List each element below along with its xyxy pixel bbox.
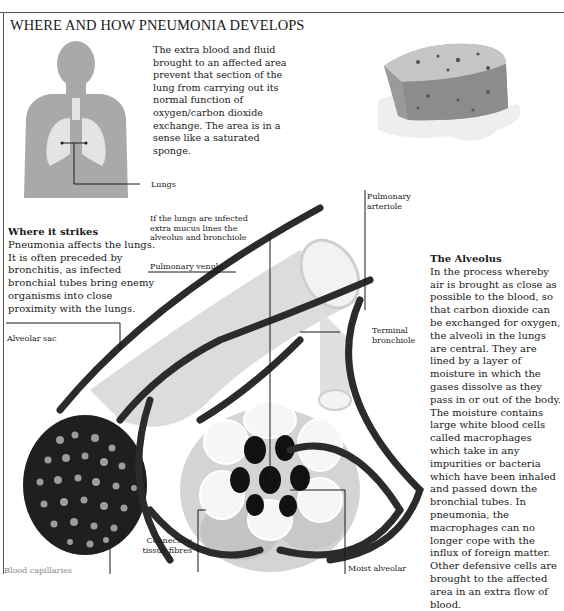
the-alveolus-text: In the process whereby air is brought as… <box>430 266 562 611</box>
label-terminal-bronchiole: Terminal bronchiole <box>372 326 427 345</box>
body-silhouette-illustration <box>10 38 140 198</box>
page-border-top <box>0 12 564 13</box>
label-moist-alveolar: Moist alveolar <box>348 564 406 574</box>
label-alveolar-sac: Alveolar sac <box>7 334 56 344</box>
alveolus-diagram <box>0 190 430 574</box>
page-title: WHERE AND HOW PNEUMONIA DEVELOPS <box>10 17 305 34</box>
the-alveolus-heading: The Alveolus <box>430 253 562 266</box>
label-mucus-note: If the lungs are infected extra mucus li… <box>150 214 270 243</box>
intro-paragraph: The extra blood and fluid brought to an … <box>153 44 293 157</box>
label-pulmonary-arteriole: Pulmonary arteriole <box>367 192 422 211</box>
sponge-illustration <box>378 30 538 150</box>
label-pulmonary-venule: Pulmonary venule <box>150 262 223 272</box>
label-lungs: Lungs <box>151 180 176 190</box>
the-alveolus-section: The Alveolus In the process whereby air … <box>430 253 562 611</box>
label-blood-capillaries: Blood capillaries <box>4 566 72 576</box>
capillary-mesh-icon <box>23 415 147 555</box>
label-connective-tissue-fibres: Connective tissue fibres <box>140 536 192 555</box>
